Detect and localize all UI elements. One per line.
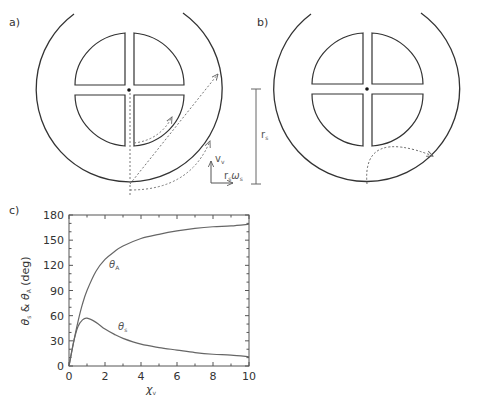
- center-dot-a: [127, 88, 131, 92]
- outer-ring-a: [36, 13, 222, 182]
- vertical-velocity-label: vv: [215, 153, 225, 165]
- y-tick-label: 30: [50, 335, 64, 348]
- paddle-top-right: [372, 33, 423, 84]
- paddle-bottom-right: [372, 94, 423, 146]
- panel-b-label: b): [257, 16, 268, 29]
- x-tick-label: 2: [102, 370, 109, 383]
- outer-ring-b: [274, 13, 460, 181]
- curve-label-θA: θA: [109, 259, 120, 271]
- chart-curves: [69, 224, 249, 366]
- curve-label-θs: θs: [118, 321, 127, 333]
- panel-c-label: c): [9, 204, 19, 217]
- paddle-top-right: [134, 33, 184, 85]
- panel-a: a) vv rsωs: [9, 13, 243, 196]
- curve-θA: [69, 224, 249, 366]
- curved-trajectory-b: [367, 147, 433, 184]
- y-tick-label: 180: [43, 209, 64, 222]
- axis-tick-labels: 02468100306090120150180: [43, 209, 256, 383]
- y-tick-label: 120: [43, 259, 64, 272]
- curve-θs: [69, 318, 249, 366]
- y-tick-label: 150: [43, 234, 64, 247]
- x-tick-label: 0: [66, 370, 73, 383]
- radius-scale-bar: [251, 89, 261, 184]
- diagonal-trajectory: [130, 74, 218, 184]
- y-tick-label: 0: [57, 360, 64, 373]
- paddle-bottom-right: [134, 95, 184, 146]
- outer-curved-trajectory: [130, 141, 210, 190]
- axis-ticks: [69, 215, 249, 366]
- plot-frame: [69, 215, 249, 366]
- paddle-top-left: [312, 33, 363, 84]
- rotational-velocity-label: rsωs: [224, 170, 243, 182]
- paddle-bottom-left: [312, 94, 363, 146]
- chart-plot: 02468100306090120150180 θAθs: [43, 209, 256, 383]
- paddle-top-left: [75, 33, 125, 85]
- trajectories-a: [130, 74, 218, 196]
- center-dot-b: [365, 87, 369, 91]
- panel-a-label: a): [9, 16, 20, 29]
- panel-b: b): [257, 13, 460, 184]
- radius-label: rs: [261, 129, 268, 141]
- figure-canvas: a) vv rsωs: [0, 0, 484, 407]
- x-axis-title: χv: [145, 383, 157, 396]
- panel-c: c) 02468100306090120150180 θAθs χv θs & …: [9, 204, 256, 396]
- x-tick-label: 8: [210, 370, 217, 383]
- y-tick-label: 90: [50, 285, 64, 298]
- x-tick-label: 6: [174, 370, 181, 383]
- y-tick-label: 60: [50, 310, 64, 323]
- x-tick-label: 4: [138, 370, 145, 383]
- y-axis-title: θs & θA (deg): [19, 256, 32, 325]
- x-tick-label: 10: [242, 370, 256, 383]
- paddle-bottom-left: [75, 95, 125, 146]
- curve-labels: θAθs: [109, 259, 127, 333]
